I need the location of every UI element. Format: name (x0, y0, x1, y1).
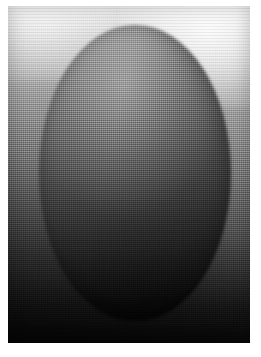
photograph-alt-text: Grayscale halftone photograph of a large… (0, 0, 1, 1)
photograph-plate (8, 6, 250, 343)
subject-blur-wrapper (8, 6, 250, 343)
ellipsoid-egg-form (39, 25, 230, 322)
subject-terminator-shading (39, 25, 230, 322)
page-canvas: Grayscale halftone photograph of a large… (0, 0, 261, 357)
